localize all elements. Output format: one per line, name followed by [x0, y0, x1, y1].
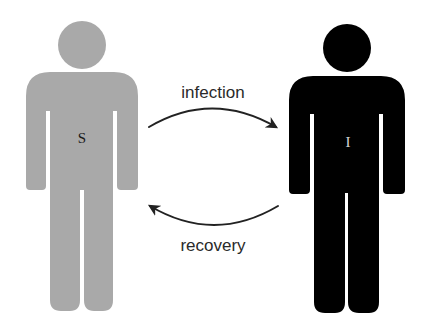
infection-label: infection	[181, 83, 244, 102]
recovery-arrow	[150, 206, 278, 225]
recovery-label: recovery	[180, 236, 246, 255]
infected-person-icon	[289, 24, 405, 313]
susceptible-person-icon	[26, 21, 138, 311]
sis-diagram: S I infection recovery	[0, 0, 427, 329]
infection-arrow	[149, 109, 276, 128]
state-label-s: S	[78, 130, 86, 146]
state-label-i: I	[346, 134, 351, 150]
